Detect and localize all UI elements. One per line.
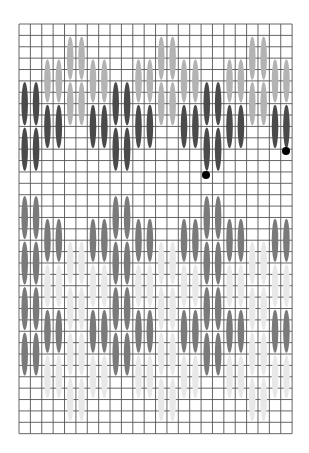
stitch-mid bbox=[238, 310, 245, 353]
stitch-light bbox=[260, 82, 267, 125]
stitch-pale bbox=[249, 287, 256, 330]
stitch-mid bbox=[272, 219, 279, 262]
stitch-light bbox=[226, 59, 233, 102]
stitch-dark bbox=[147, 105, 154, 148]
stitch-light bbox=[283, 59, 290, 102]
stitch-dark bbox=[21, 82, 28, 125]
stitch-dark bbox=[238, 105, 245, 148]
stitch-pale bbox=[67, 287, 74, 330]
stitch-mid bbox=[192, 219, 199, 262]
stitch-mid bbox=[283, 310, 290, 353]
stitch-pale bbox=[226, 355, 233, 398]
stitch-pale bbox=[272, 264, 279, 307]
stitch-mid bbox=[192, 310, 199, 353]
stitch-mid bbox=[101, 219, 108, 262]
stitch-dark bbox=[181, 105, 188, 148]
stitch-light bbox=[56, 59, 63, 102]
stitch-mid bbox=[33, 332, 40, 375]
stitch-mid bbox=[21, 241, 28, 284]
stitch-mid bbox=[203, 241, 210, 284]
stitch-mid bbox=[112, 196, 119, 239]
stitch-light bbox=[90, 59, 97, 102]
stitch-pale bbox=[158, 241, 165, 284]
stitch-dark bbox=[272, 105, 279, 148]
stitch-pale bbox=[192, 355, 199, 398]
stitch-mid bbox=[272, 310, 279, 353]
stitch-pale bbox=[67, 241, 74, 284]
stitch-pale bbox=[67, 332, 74, 375]
stitch-dark bbox=[203, 82, 210, 125]
stitch-pale bbox=[169, 378, 176, 421]
stitch-mid bbox=[112, 287, 119, 330]
stitch-mid bbox=[226, 310, 233, 353]
stitch-light bbox=[67, 82, 74, 125]
stitch-mid bbox=[283, 219, 290, 262]
stitch-dark bbox=[192, 105, 199, 148]
stitch-light bbox=[147, 59, 154, 102]
stitch-mid bbox=[56, 219, 63, 262]
stitch-mid bbox=[135, 310, 142, 353]
stitch-mid bbox=[181, 219, 188, 262]
stitch-dark bbox=[124, 82, 131, 125]
stitch-light bbox=[101, 59, 108, 102]
stitch-pale bbox=[135, 355, 142, 398]
stitch-dark bbox=[56, 105, 63, 148]
stitch-mid bbox=[203, 287, 210, 330]
stitch-mid bbox=[226, 219, 233, 262]
stitch-mid bbox=[33, 196, 40, 239]
stitch-pale bbox=[260, 332, 267, 375]
stitch-pale bbox=[56, 355, 63, 398]
stitch-dark bbox=[90, 105, 97, 148]
stitch-mid bbox=[21, 332, 28, 375]
stitch-dark bbox=[44, 105, 51, 148]
stitch-light bbox=[158, 37, 165, 80]
stitch-chart bbox=[0, 0, 309, 453]
stitch-light bbox=[78, 37, 85, 80]
stitch-pale bbox=[147, 355, 154, 398]
stitch-pale bbox=[192, 264, 199, 307]
stitch-mid bbox=[90, 310, 97, 353]
stitch-pale bbox=[181, 264, 188, 307]
stitch-mid bbox=[101, 310, 108, 353]
stitch-mid bbox=[33, 287, 40, 330]
stitch-pale bbox=[249, 378, 256, 421]
stitch-dark bbox=[101, 105, 108, 148]
stitch-pale bbox=[78, 241, 85, 284]
stitch-pale bbox=[260, 287, 267, 330]
stitch-pale bbox=[169, 332, 176, 375]
stitch-light bbox=[67, 37, 74, 80]
stitch-pale bbox=[90, 264, 97, 307]
stitch-pale bbox=[158, 332, 165, 375]
stitch-pale bbox=[44, 355, 51, 398]
stitch-dark bbox=[215, 82, 222, 125]
stitch-dark bbox=[226, 105, 233, 148]
stitch-light bbox=[169, 82, 176, 125]
stitch-light bbox=[272, 59, 279, 102]
stitch-mid bbox=[238, 219, 245, 262]
stitch-light bbox=[249, 82, 256, 125]
stitch-mid bbox=[124, 241, 131, 284]
stitch-pale bbox=[78, 378, 85, 421]
stitch-light bbox=[238, 59, 245, 102]
stitch-pale bbox=[56, 264, 63, 307]
stitch-pale bbox=[169, 287, 176, 330]
stitch-mid bbox=[203, 332, 210, 375]
stitch-pale bbox=[249, 332, 256, 375]
stitch-light bbox=[44, 59, 51, 102]
stitch-mid bbox=[215, 241, 222, 284]
stitch-dark bbox=[33, 128, 40, 171]
stitch-light bbox=[169, 37, 176, 80]
stitch-mid bbox=[124, 287, 131, 330]
stitch-pale bbox=[226, 264, 233, 307]
stitch-mid bbox=[112, 241, 119, 284]
stitch-light bbox=[181, 59, 188, 102]
stitch-pale bbox=[249, 241, 256, 284]
stitch-mid bbox=[21, 196, 28, 239]
stitch-pale bbox=[283, 264, 290, 307]
stitch-mid bbox=[21, 287, 28, 330]
start-dot-icon bbox=[202, 171, 210, 179]
stitch-pale bbox=[238, 264, 245, 307]
stitch-pale bbox=[147, 264, 154, 307]
stitch-light bbox=[158, 82, 165, 125]
stitch-mid bbox=[215, 287, 222, 330]
